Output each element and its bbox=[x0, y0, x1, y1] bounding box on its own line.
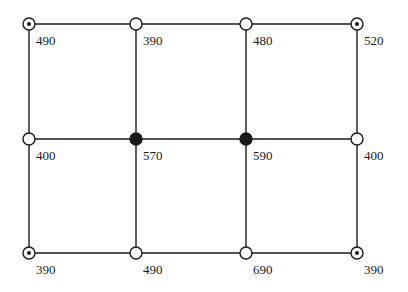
node-open-icon bbox=[240, 18, 252, 30]
node-open-icon bbox=[130, 247, 142, 259]
node-value-label: 400 bbox=[364, 149, 384, 162]
grid-lines bbox=[0, 0, 408, 292]
node-value-label: 520 bbox=[364, 34, 384, 47]
node-value-label: 390 bbox=[364, 263, 384, 276]
node-value-label: 590 bbox=[253, 149, 273, 162]
node-open-icon bbox=[130, 18, 142, 30]
node-open-icon bbox=[23, 133, 35, 145]
node-value-label: 400 bbox=[36, 149, 56, 162]
node-value-label: 480 bbox=[253, 34, 273, 47]
node-dotted-icon bbox=[351, 247, 363, 259]
node-open-icon bbox=[351, 133, 363, 145]
node-filled-icon bbox=[240, 133, 252, 145]
grid-diagram: 490390480520400570590400390490690390 bbox=[0, 0, 408, 292]
node-filled-icon bbox=[130, 133, 142, 145]
node-value-label: 570 bbox=[143, 149, 163, 162]
node-dotted-icon bbox=[23, 247, 35, 259]
node-open-icon bbox=[240, 247, 252, 259]
node-dotted-icon bbox=[351, 18, 363, 30]
node-value-label: 390 bbox=[36, 263, 56, 276]
node-value-label: 490 bbox=[36, 34, 56, 47]
node-value-label: 390 bbox=[143, 34, 163, 47]
node-value-label: 490 bbox=[143, 263, 163, 276]
node-dotted-icon bbox=[23, 18, 35, 30]
node-value-label: 690 bbox=[253, 263, 273, 276]
